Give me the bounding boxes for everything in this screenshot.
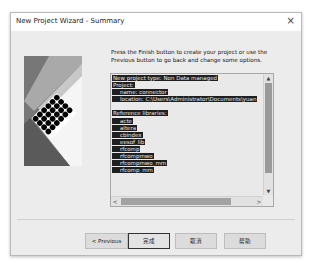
summary-line-text: altera	[112, 125, 137, 131]
summary-line-text: rfcomp_mm	[112, 167, 154, 173]
summary-line: Project:	[112, 82, 262, 89]
new-project-wizard-dialog: New Project Wizard - Summary × Press the…	[10, 12, 302, 256]
summary-line-text: New project type: Non Data managed	[112, 75, 218, 81]
summary-line-text: eesof_lib	[112, 139, 145, 145]
horizontal-scroll-thumb[interactable]	[121, 198, 231, 205]
summary-line: name: connector	[112, 89, 262, 96]
summary-line: Reference libraries:	[112, 110, 262, 117]
summary-line: cbindex	[112, 132, 262, 139]
scroll-left-icon[interactable]: <	[111, 197, 119, 206]
scroll-down-icon[interactable]: ▼	[264, 187, 273, 195]
vertical-scroll-thumb[interactable]	[265, 83, 272, 173]
summary-line-text: Reference libraries:	[112, 110, 168, 116]
summary-line-text: acte	[112, 118, 133, 124]
summary-line-text: rfcomp	[112, 146, 140, 152]
summary-line-blank	[112, 103, 262, 110]
title-bar: New Project Wizard - Summary ×	[11, 13, 301, 31]
close-icon[interactable]: ×	[287, 15, 295, 27]
summary-textbox[interactable]: New project type: Non Data managed Proje…	[110, 73, 274, 207]
finish-button[interactable]: 完成	[128, 233, 170, 249]
summary-line: altera	[112, 125, 262, 132]
instructions-text: Press the Finish button to create your p…	[111, 48, 291, 64]
summary-line: rfcompmwo	[112, 153, 262, 160]
summary-line: New project type: Non Data managed	[112, 75, 262, 82]
scroll-up-icon[interactable]: ▲	[264, 74, 273, 82]
summary-line-text: name: connector	[112, 89, 168, 95]
previous-button[interactable]: < Previous	[85, 233, 128, 249]
summary-line: rfcompmwo_mm	[112, 160, 262, 167]
summary-line: location: C:\Users\Administrator\Documen…	[112, 96, 262, 103]
summary-content: New project type: Non Data managed Proje…	[112, 75, 262, 191]
summary-line-text: rfcompmwo	[112, 153, 154, 159]
summary-line-text: cbindex	[112, 132, 143, 138]
cancel-button[interactable]: 取消	[175, 233, 217, 249]
footer-separator	[17, 219, 295, 220]
summary-line: rfcomp_mm	[112, 167, 262, 174]
summary-line: rfcomp	[112, 146, 262, 153]
summary-line: eesof_lib	[112, 139, 262, 146]
window-title: New Project Wizard - Summary	[16, 17, 124, 25]
summary-line-text: location: C:\Users\Administrator\Documen…	[112, 96, 257, 102]
horizontal-scrollbar[interactable]: < >	[111, 196, 263, 206]
vertical-scrollbar[interactable]: ▲ ▼	[263, 74, 273, 195]
summary-line-text: rfcompmwo_mm	[112, 160, 167, 166]
scroll-right-icon[interactable]: >	[255, 197, 263, 206]
wizard-checkerboard-illustration	[24, 56, 82, 166]
help-button[interactable]: 帮助	[224, 233, 266, 249]
summary-line: acte	[112, 118, 262, 125]
summary-line-text: Project:	[112, 82, 135, 88]
